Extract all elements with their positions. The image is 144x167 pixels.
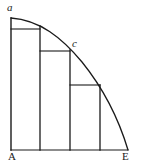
point-label-end: E	[122, 151, 129, 162]
geometry-diagram	[0, 0, 144, 167]
point-label-c: c	[72, 38, 77, 49]
point-label-a: a	[7, 2, 13, 13]
figure-container: a c A E	[0, 0, 144, 167]
point-label-origin: A	[8, 151, 16, 162]
